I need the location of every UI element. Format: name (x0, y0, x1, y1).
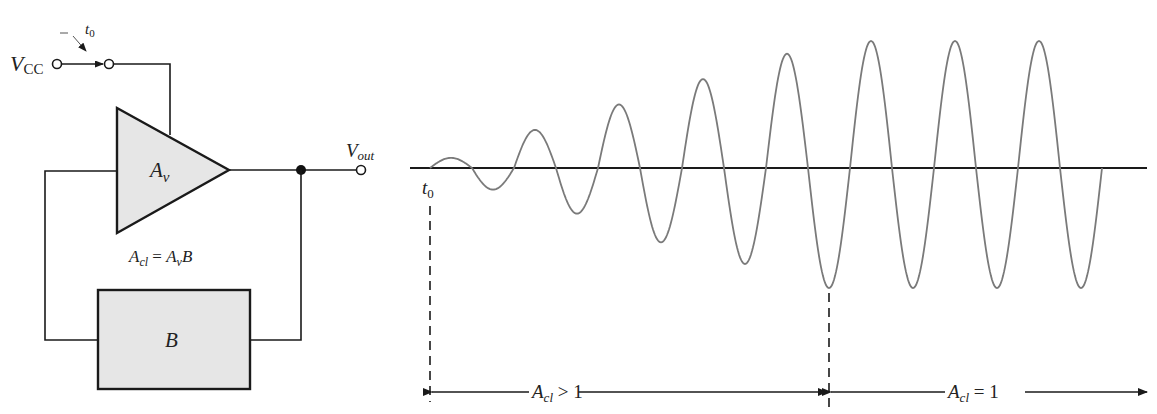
oscillation-waveform-plot: t0 Acl > 1 Acl = 1 (410, 41, 1147, 412)
switch-time-label: t0 (85, 21, 95, 39)
vout-label: Vout (346, 140, 375, 163)
oscillator-figure: VCC t0 Av Vout Acl = AvB B (0, 0, 1157, 414)
feedback-label: B (165, 328, 178, 352)
vout-terminal (357, 166, 366, 175)
oscillation-curve (430, 41, 1102, 288)
t0-label: t0 (422, 177, 434, 201)
oscillator-circuit: VCC t0 Av Vout Acl = AvB B (10, 21, 375, 389)
gain-equation: Acl = AvB (128, 247, 193, 269)
vcc-label: VCC (10, 51, 43, 77)
steady-region-label: Acl = 1 (946, 381, 999, 405)
switch-annotation-leader (73, 36, 86, 51)
growth-region-label: Acl > 1 (530, 381, 583, 405)
switch-contact (105, 60, 114, 69)
vcc-terminal (53, 60, 62, 69)
feedback-wire-right (250, 170, 301, 340)
amplifier-block (117, 108, 229, 233)
